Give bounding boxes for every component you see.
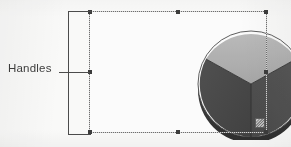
screenshot-canvas: Handles (0, 0, 291, 147)
callout-bracket (68, 11, 91, 135)
pie-chart-svg (196, 28, 291, 140)
callout-leader-line (59, 72, 90, 73)
handles-annotation-label: Handles (8, 62, 52, 75)
pie-chart[interactable] (196, 28, 291, 140)
chart-object[interactable]: Cash Grain Dairy Field Crops Hogs (89, 11, 267, 133)
resize-grip-handle[interactable] (255, 118, 265, 128)
